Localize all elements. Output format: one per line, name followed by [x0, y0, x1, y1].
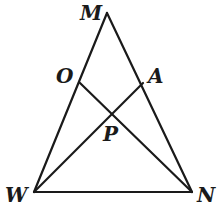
- label-M: M: [79, 1, 103, 25]
- label-W: W: [5, 183, 30, 207]
- triangle-diagram: M O A P W N: [0, 0, 219, 224]
- label-N: N: [196, 183, 216, 207]
- label-P: P: [102, 122, 119, 146]
- segment-MW: [34, 13, 107, 192]
- segment-MN: [107, 13, 192, 192]
- segment-AW: [34, 83, 143, 192]
- label-O: O: [56, 64, 74, 88]
- segment-ON: [80, 83, 192, 192]
- label-A: A: [146, 64, 164, 88]
